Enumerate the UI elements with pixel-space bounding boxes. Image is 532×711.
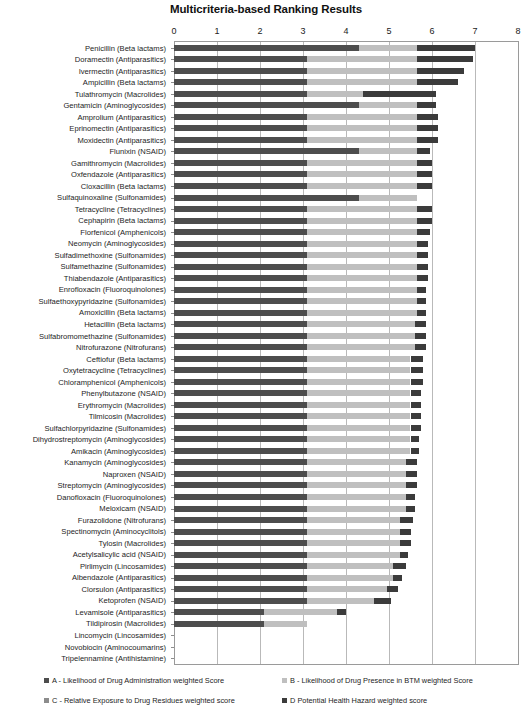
bar-segment-d[interactable] (400, 540, 411, 546)
bar-segment-a[interactable] (174, 459, 307, 465)
bar-segment-a[interactable] (174, 160, 307, 166)
bar-segment-b[interactable] (307, 229, 417, 235)
bar-segment-b[interactable] (307, 264, 417, 270)
bar-segment-d[interactable] (417, 114, 439, 120)
bar-segment-d[interactable] (406, 482, 417, 488)
bar-segment-b[interactable] (307, 425, 410, 431)
bar-segment-d[interactable] (411, 425, 422, 431)
bar-segment-b[interactable] (307, 436, 410, 442)
bar-segment-d[interactable] (417, 264, 428, 270)
bar-segment-a[interactable] (174, 517, 307, 523)
bar-segment-b[interactable] (307, 56, 417, 62)
bar-segment-a[interactable] (174, 540, 307, 546)
bar-segment-a[interactable] (174, 609, 264, 615)
bar-segment-b[interactable] (307, 529, 399, 535)
bar-segment-d[interactable] (417, 160, 432, 166)
bar-segment-d[interactable] (417, 229, 430, 235)
bar-segment-b[interactable] (307, 91, 363, 97)
bar-segment-d[interactable] (417, 102, 436, 108)
bar-segment-d[interactable] (400, 552, 409, 558)
bar-segment-b[interactable] (307, 183, 417, 189)
bar-segment-b[interactable] (307, 298, 417, 304)
bar-segment-a[interactable] (174, 310, 307, 316)
bar-segment-b[interactable] (307, 79, 417, 85)
bar-segment-a[interactable] (174, 598, 307, 604)
bar-segment-d[interactable] (415, 344, 426, 350)
bar-segment-b[interactable] (307, 448, 410, 454)
bar-segment-d[interactable] (417, 45, 475, 51)
bar-segment-b[interactable] (307, 390, 410, 396)
bar-segment-b[interactable] (307, 241, 417, 247)
bar-segment-d[interactable] (417, 287, 426, 293)
bar-segment-a[interactable] (174, 402, 307, 408)
bar-segment-d[interactable] (411, 356, 424, 362)
bar-segment-a[interactable] (174, 436, 307, 442)
bar-segment-a[interactable] (174, 91, 307, 97)
bar-segment-b[interactable] (307, 517, 399, 523)
bar-segment-a[interactable] (174, 344, 307, 350)
bar-segment-d[interactable] (417, 310, 426, 316)
bar-segment-d[interactable] (417, 125, 439, 131)
bar-segment-b[interactable] (307, 367, 410, 373)
bar-segment-b[interactable] (307, 552, 399, 558)
bar-segment-d[interactable] (417, 218, 432, 224)
bar-segment-d[interactable] (400, 517, 413, 523)
bar-segment-b[interactable] (264, 609, 337, 615)
bar-segment-b[interactable] (307, 252, 417, 258)
bar-segment-a[interactable] (174, 321, 307, 327)
bar-segment-a[interactable] (174, 529, 307, 535)
bar-segment-b[interactable] (307, 344, 415, 350)
bar-segment-d[interactable] (417, 79, 458, 85)
bar-segment-a[interactable] (174, 390, 307, 396)
bar-segment-a[interactable] (174, 356, 307, 362)
bar-segment-b[interactable] (307, 68, 417, 74)
bar-segment-d[interactable] (417, 68, 464, 74)
bar-segment-d[interactable] (415, 321, 426, 327)
bar-segment-b[interactable] (359, 195, 417, 201)
bar-segment-b[interactable] (307, 287, 417, 293)
bar-segment-b[interactable] (307, 379, 410, 385)
bar-segment-b[interactable] (264, 621, 307, 627)
bar-segment-b[interactable] (307, 586, 387, 592)
bar-segment-a[interactable] (174, 102, 359, 108)
bar-segment-b[interactable] (307, 137, 417, 143)
bar-segment-b[interactable] (307, 540, 399, 546)
bar-segment-d[interactable] (417, 171, 432, 177)
bar-segment-b[interactable] (307, 413, 410, 419)
bar-segment-a[interactable] (174, 114, 307, 120)
bar-segment-b[interactable] (307, 598, 374, 604)
bar-segment-b[interactable] (359, 45, 417, 51)
bar-segment-d[interactable] (411, 390, 422, 396)
bar-segment-a[interactable] (174, 494, 307, 500)
bar-segment-a[interactable] (174, 56, 307, 62)
bar-segment-a[interactable] (174, 413, 307, 419)
bar-segment-d[interactable] (411, 413, 422, 419)
bar-segment-b[interactable] (307, 275, 417, 281)
legend-item[interactable]: A - Likelihood of Drug Administration we… (44, 676, 224, 685)
bar-segment-d[interactable] (411, 379, 424, 385)
bar-segment-d[interactable] (406, 459, 417, 465)
bar-segment-d[interactable] (411, 448, 420, 454)
bar-segment-b[interactable] (307, 482, 406, 488)
bar-segment-d[interactable] (417, 298, 426, 304)
bar-segment-b[interactable] (307, 471, 406, 477)
bar-segment-a[interactable] (174, 552, 307, 558)
bar-segment-d[interactable] (387, 586, 398, 592)
bar-segment-b[interactable] (307, 160, 417, 166)
bar-segment-d[interactable] (417, 241, 428, 247)
bar-segment-b[interactable] (307, 218, 417, 224)
bar-segment-d[interactable] (417, 148, 430, 154)
bar-segment-b[interactable] (307, 114, 417, 120)
bar-segment-d[interactable] (417, 137, 439, 143)
bar-segment-b[interactable] (307, 563, 393, 569)
bar-segment-b[interactable] (307, 125, 417, 131)
legend-item[interactable]: B - Likelihood of Drug Presence in BTM w… (282, 676, 473, 685)
bar-segment-a[interactable] (174, 275, 307, 281)
bar-segment-a[interactable] (174, 575, 307, 581)
bar-segment-a[interactable] (174, 448, 307, 454)
bar-segment-a[interactable] (174, 621, 264, 627)
bar-segment-b[interactable] (307, 310, 417, 316)
bar-segment-d[interactable] (411, 367, 424, 373)
bar-segment-a[interactable] (174, 171, 307, 177)
bar-segment-d[interactable] (393, 563, 406, 569)
